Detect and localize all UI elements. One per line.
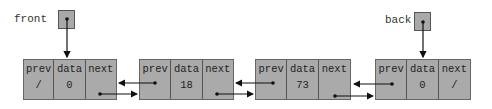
pointer-arrows — [0, 0, 492, 109]
next-arrow-1-2 — [215, 92, 253, 96]
prev-arrow-2-1 — [236, 81, 275, 85]
next-arrow-2-3 — [333, 94, 373, 98]
back-arrow — [421, 20, 425, 57]
front-arrow — [65, 17, 69, 57]
prev-arrow-3-2 — [354, 82, 394, 86]
prev-arrow-1-0 — [119, 81, 157, 85]
next-arrow-0-1 — [98, 92, 137, 96]
